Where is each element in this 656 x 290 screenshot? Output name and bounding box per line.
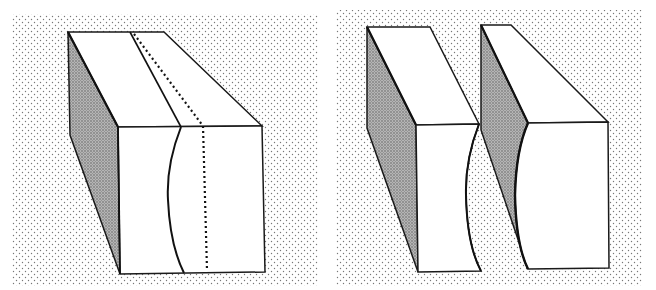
left-block-front-face	[118, 126, 265, 274]
figure-canvas	[0, 0, 656, 290]
block-b-front-face	[515, 122, 609, 269]
left-panel	[12, 14, 318, 286]
right-panel	[336, 10, 642, 286]
